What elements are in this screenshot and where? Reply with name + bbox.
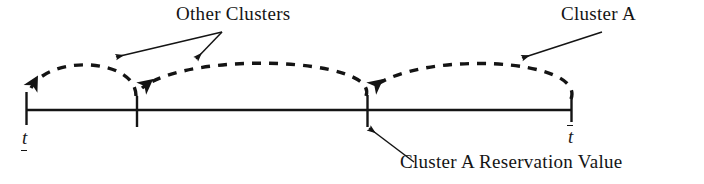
annotation-other-clusters-right bbox=[196, 32, 222, 59]
cluster-timeline-figure: Other Clusters Cluster A Cluster A Reser… bbox=[0, 0, 704, 184]
axis-label-lower-bound: t bbox=[21, 127, 28, 149]
arc-other-cluster-2 bbox=[142, 63, 367, 96]
arc-cluster-a bbox=[372, 63, 572, 99]
label-cluster-a: Cluster A bbox=[561, 4, 636, 23]
arc-other-cluster-1 bbox=[31, 65, 136, 96]
label-other-clusters: Other Clusters bbox=[176, 4, 291, 23]
annotation-other-clusters-left bbox=[116, 32, 222, 57]
annotation-cluster-a bbox=[522, 32, 602, 58]
axis-label-lower-bound-symbol: t bbox=[21, 127, 28, 149]
axis-label-upper-bound-symbol: t bbox=[567, 126, 574, 148]
label-cluster-a-reservation-value: Cluster A Reservation Value bbox=[400, 152, 623, 171]
axis-label-upper-bound: t bbox=[567, 126, 574, 148]
